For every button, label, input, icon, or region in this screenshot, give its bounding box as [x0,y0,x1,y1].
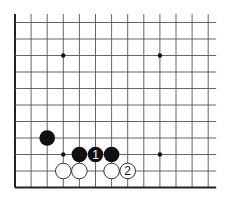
move-number-label: 2 [124,164,131,178]
black-stone: 1 [88,147,104,163]
star-point-icon [61,53,65,57]
white-stone: 2 [120,163,136,179]
star-point-icon [158,152,162,156]
white-stone [56,163,72,179]
black-stone [39,130,55,146]
black-stone [104,147,120,163]
white-stone-icon [104,163,120,179]
grid-lines [15,14,216,188]
go-board: 12 [0,0,231,200]
white-stone-icon [72,163,88,179]
star-point-icon [61,152,65,156]
white-stone-icon [56,163,72,179]
black-stone-icon [72,147,88,163]
star-point-icon [158,53,162,57]
white-stone [72,163,88,179]
black-stone [72,147,88,163]
white-stone [104,163,120,179]
black-stone-icon [104,147,120,163]
black-stone-icon [39,130,55,146]
move-number-label: 1 [92,148,99,162]
